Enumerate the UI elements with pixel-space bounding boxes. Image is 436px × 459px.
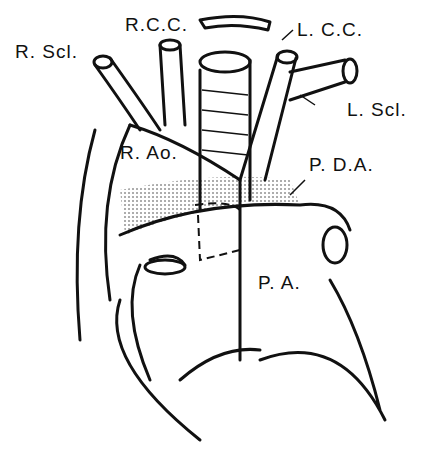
- label-l-scl: L. Scl.: [347, 100, 407, 119]
- label-r-scl: R. Scl.: [15, 42, 78, 61]
- label-l-cc: L. C.C.: [297, 20, 363, 39]
- anatomy-drawing: [0, 0, 436, 459]
- right-common-carotid: [160, 45, 185, 125]
- label-pa: P. A.: [258, 273, 301, 292]
- heart-outline: [117, 280, 385, 440]
- label-r-ao: R. Ao.: [120, 143, 178, 162]
- diagram: R. Scl. R.C.C. L. C.C. L. Scl. R. Ao. P.…: [0, 0, 436, 459]
- left-subclavian-artery: [290, 60, 345, 100]
- left-common-carotid: [240, 55, 296, 360]
- label-pda: P. D.A.: [309, 155, 374, 174]
- label-r-cc: R.C.C.: [125, 15, 188, 34]
